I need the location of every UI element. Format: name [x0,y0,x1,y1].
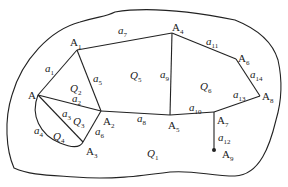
edge-a8 [101,111,170,115]
region-label-q1: Q1 [147,147,159,162]
edge-label-a9: a9 [160,68,170,83]
edge-label-a6: a6 [95,125,105,140]
vertex-label-a2: A2 [103,115,115,130]
edge-label-a4: a4 [34,124,44,139]
edge-a11 [172,33,236,59]
edge-label-a8: a8 [137,112,147,127]
region-label-q6: Q6 [200,80,212,95]
vertex-label-a7: A7 [217,114,229,129]
edge-label-a12: a12 [218,131,231,146]
edge-label-a13: a13 [233,88,246,103]
edge-label-a14: a14 [250,68,263,83]
edge-label-a1: a1 [45,62,55,77]
edge-a2 [38,95,101,111]
region-label-q3: Q3 [73,115,85,130]
edge-label-a3: a3 [62,107,72,122]
labels: AA1A2A3A4A5A6A7A8A9a1a2a3a4a5a6a7a8a9a10… [28,21,274,163]
edge-a9 [170,33,172,115]
region-label-q5: Q5 [130,69,142,84]
vertex-label-a8: A8 [262,90,274,105]
vertex-label-a5: A5 [168,119,180,134]
outer-boundary [7,10,281,178]
vertex-dot-a9 [212,148,216,152]
vertex-label-a: A [28,89,36,101]
edge-label-a7: a7 [118,24,128,39]
vertex-label-a9: A9 [222,148,234,163]
edge-label-a5: a5 [93,72,103,87]
vertex-label-a3: A3 [86,145,98,160]
planar-graph-diagram: AA1A2A3A4A5A6A7A8A9a1a2a3a4a5a6a7a8a9a10… [0,0,288,187]
vertex-label-a1: A1 [70,36,82,51]
edges [35,33,260,150]
